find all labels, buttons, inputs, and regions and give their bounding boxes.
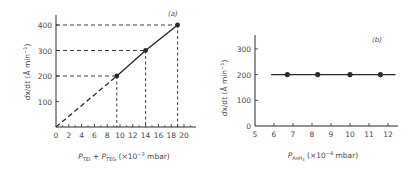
y-tick-label: 300 [38,47,53,56]
x-tick-label: 20 [179,131,189,140]
x-tick-label: 9 [329,130,334,139]
chart-panel-b: 56789101112 0100200300 (b) dx/dt (Å min−… [219,35,398,162]
x-tick-label: 7 [291,130,296,139]
x-tick-label: 12 [128,131,138,140]
data-point [347,72,352,77]
x-tick-label: 0 [54,131,59,140]
extrapolation-line [56,76,117,127]
x-tick-label: 11 [364,130,374,139]
x-tick-label: 6 [272,130,277,139]
data-point [315,72,320,77]
panel-tag-b: (b) [372,36,382,44]
y-tick-label: 100 [237,96,252,105]
data-series-a [56,23,180,127]
y-tick-label: 100 [38,98,53,107]
x-tick-label: 16 [154,131,164,140]
data-point [114,74,119,79]
data-point [378,72,383,77]
data-point [175,23,180,28]
x-axis-label-a: PTEI + PTEG (×10−3 mbar) [78,151,170,162]
x-tick-label: 6 [92,131,97,140]
y-tick-labels-a: 100200300400 [38,21,53,107]
x-tick-label: 8 [105,131,110,140]
y-label-main: x/dt (Å min [23,54,32,96]
x-tick-labels-b: 56789101112 [253,130,393,139]
x-tick-label: 5 [253,130,258,139]
x-tick-label: 10 [345,130,355,139]
y-tick-label: 400 [38,21,53,30]
x-tick-label: 18 [166,131,176,140]
x-tick-label: 8 [310,130,315,139]
x-axis-label-b: PAsH3 (×10−4 mbar) [288,150,359,162]
x-tick-label: 10 [115,131,125,140]
panel-tag-a: (a) [168,10,178,18]
y-tick-label: 200 [38,72,53,81]
data-series-b [271,72,395,77]
x-tick-label: 12 [383,130,393,139]
y-axis-label-a: dx/dt (Å min−1) [22,44,32,101]
y-tick-label: 200 [237,71,252,80]
y-axis-label-b: dx/dt (Å min−1) [219,60,229,117]
x-tick-labels-a: 02468101214161820 [54,131,189,140]
y-tick-label: 0 [246,122,251,131]
y-tick-labels-b: 0100200300 [237,45,252,131]
x-tick-label: 4 [79,131,84,140]
axes-b [255,35,398,126]
x-tick-label: 14 [141,131,151,140]
data-point [285,72,290,77]
data-point [143,48,148,53]
figure: 02468101214161820 100200300400 (a) dx/dt… [0,0,411,170]
chart-panel-a: 02468101214161820 100200300400 (a) dx/dt… [22,10,196,162]
x-tick-label: 2 [66,131,71,140]
y-tick-label: 300 [237,45,252,54]
